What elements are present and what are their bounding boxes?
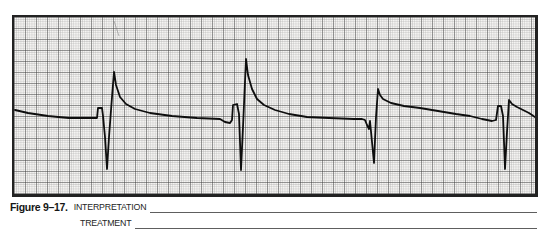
- interpretation-row: Figure 9–17. INTERPRETATION: [10, 199, 537, 212]
- figure-label: Figure 9–17.: [10, 202, 68, 213]
- interpretation-blank-line: [150, 212, 537, 213]
- treatment-row: TREATMENT: [10, 215, 537, 228]
- ecg-strip: [12, 15, 538, 197]
- figure-caption: Figure 9–17. INTERPRETATION TREATMENT: [10, 199, 537, 228]
- treatment-label: TREATMENT: [80, 219, 131, 228]
- ecg-grid-major: [14, 17, 535, 194]
- page-corner-mark: ’: [8, 0, 11, 9]
- ecg-strip-svg: [14, 17, 535, 194]
- treatment-blank-line: [135, 228, 537, 229]
- interpretation-label: INTERPRETATION: [74, 203, 147, 212]
- workbook-page: ’ Figure 9–17. INTERPRETATION TR: [0, 0, 547, 244]
